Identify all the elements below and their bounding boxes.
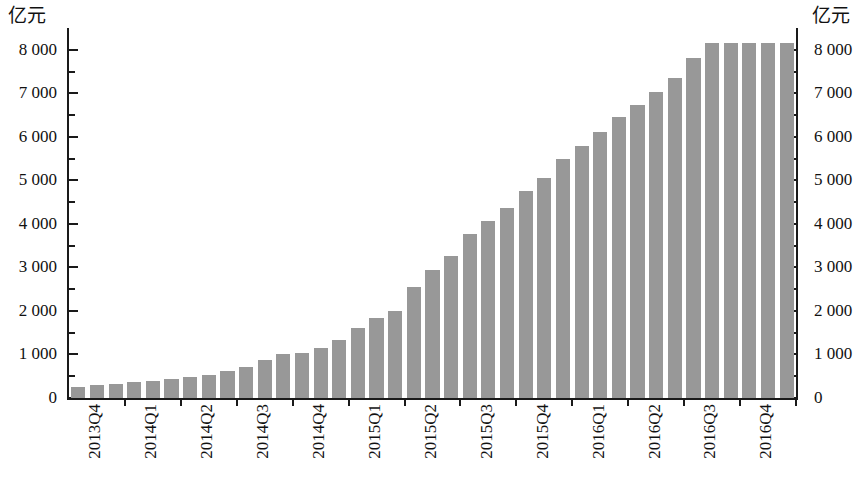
x-axis-label-2016Q4: 2016Q4 — [757, 404, 774, 459]
y-axis-label-right-7000: 7 000 — [814, 84, 852, 101]
bar — [649, 92, 663, 398]
x-axis-label-2014Q3: 2014Q3 — [254, 404, 271, 459]
bar — [500, 208, 514, 398]
bar — [164, 379, 178, 398]
x-axis-label-2014Q4: 2014Q4 — [310, 404, 327, 459]
y-axis-label-left-4000: 4 000 — [19, 215, 57, 232]
bar — [481, 221, 495, 398]
bar — [575, 146, 589, 398]
bar — [686, 58, 700, 398]
bar — [556, 159, 570, 398]
right-axis-tick-labels: 8 0007 0006 0005 0004 0003 0002 0001 000… — [806, 28, 866, 400]
bar — [183, 377, 197, 398]
y-axis-label-left-5000: 5 000 — [19, 171, 57, 188]
y-axis-label-right-8000: 8 000 — [814, 41, 852, 58]
y-axis-label-right-3000: 3 000 — [814, 258, 852, 275]
y-axis-label-left-7000: 7 000 — [19, 84, 57, 101]
bar — [71, 387, 85, 398]
x-axis-label-2014Q2: 2014Q2 — [198, 404, 215, 459]
bar — [351, 328, 365, 398]
bar — [519, 191, 533, 398]
bar — [258, 360, 272, 398]
bar — [220, 371, 234, 398]
x-axis-label-2015Q3: 2015Q3 — [478, 404, 495, 459]
plot-area — [67, 28, 798, 400]
bar — [127, 382, 141, 398]
bar — [407, 287, 421, 398]
bar — [369, 318, 383, 398]
left-axis-unit-label: 亿元 — [8, 6, 46, 25]
x-axis-tick-labels: 2013Q42014Q12014Q22014Q32014Q42015Q12015… — [0, 404, 866, 484]
y-axis-label-left-3000: 3 000 — [19, 258, 57, 275]
right-axis-unit-label: 亿元 — [812, 6, 850, 25]
bar — [612, 117, 626, 398]
bottom-axis-line — [67, 398, 798, 400]
bar — [780, 43, 794, 398]
bar — [90, 385, 104, 398]
bar — [239, 367, 253, 398]
bar-chart: 亿元 亿元 8 0007 0006 0005 0004 0003 0002 00… — [0, 0, 866, 484]
bar — [146, 381, 160, 398]
x-axis-label-2016Q3: 2016Q3 — [701, 404, 718, 459]
bar — [668, 78, 682, 398]
bar — [593, 132, 607, 398]
bar — [537, 178, 551, 398]
x-axis-label-2014Q1: 2014Q1 — [142, 404, 159, 459]
x-axis-label-2015Q4: 2015Q4 — [534, 404, 551, 459]
bar — [202, 375, 216, 399]
bar-series — [69, 28, 796, 398]
right-axis-line — [796, 28, 798, 400]
y-axis-label-left-8000: 8 000 — [19, 41, 57, 58]
bar — [314, 348, 328, 398]
y-axis-label-right-4000: 4 000 — [814, 215, 852, 232]
y-axis-label-right-6000: 6 000 — [814, 128, 852, 145]
y-axis-label-left-2000: 2 000 — [19, 302, 57, 319]
bar — [742, 43, 756, 398]
bar — [705, 43, 719, 398]
bar — [295, 353, 309, 398]
y-axis-label-left-1000: 1 000 — [19, 345, 57, 362]
bar — [463, 234, 477, 398]
left-axis-tick-labels: 8 0007 0006 0005 0004 0003 0002 0001 000… — [0, 28, 61, 400]
bar — [109, 384, 123, 398]
y-axis-label-left-6000: 6 000 — [19, 128, 57, 145]
y-axis-label-right-5000: 5 000 — [814, 171, 852, 188]
bar — [425, 270, 439, 398]
x-axis-label-2016Q2: 2016Q2 — [646, 404, 663, 459]
x-axis-label-2015Q2: 2015Q2 — [422, 404, 439, 459]
bar — [444, 256, 458, 398]
y-axis-label-right-1000: 1 000 — [814, 345, 852, 362]
x-axis-label-2016Q1: 2016Q1 — [590, 404, 607, 459]
bar — [332, 340, 346, 398]
bar — [724, 43, 738, 398]
bar — [388, 311, 402, 398]
bar — [276, 354, 290, 398]
x-axis-label-2015Q1: 2015Q1 — [366, 404, 383, 459]
x-axis-label-2013Q4: 2013Q4 — [86, 404, 103, 459]
bar — [630, 105, 644, 398]
bar — [761, 43, 775, 398]
y-axis-label-right-2000: 2 000 — [814, 302, 852, 319]
